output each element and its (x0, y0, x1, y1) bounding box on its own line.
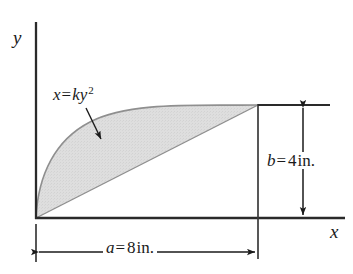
curve-equation-label: x=ky2 (53, 84, 93, 103)
base-symbol: a (106, 238, 115, 257)
y-axis-label: y (13, 28, 21, 47)
height-equals-sign: = (276, 151, 288, 170)
equation-variable-y: y (80, 85, 88, 104)
base-value: 8 (126, 238, 137, 257)
height-value: 4 (287, 151, 298, 170)
x-axis-label: x (330, 222, 338, 241)
base-dimension-label: a=8in. (103, 239, 157, 256)
equation-constant-k: k (72, 85, 80, 104)
equation-variable-x: x (53, 85, 61, 104)
base-equals-sign: = (115, 238, 127, 257)
height-dimension-label: b=4in. (264, 152, 318, 169)
equation-exponent: 2 (88, 84, 94, 96)
figure-drawing (0, 0, 353, 274)
equation-equals-sign: = (61, 85, 73, 104)
figure-container: y x x=ky2 b=4in. a=8in. (0, 0, 353, 274)
base-unit: in. (137, 238, 154, 257)
height-symbol: b (267, 151, 276, 170)
height-unit: in. (298, 151, 315, 170)
